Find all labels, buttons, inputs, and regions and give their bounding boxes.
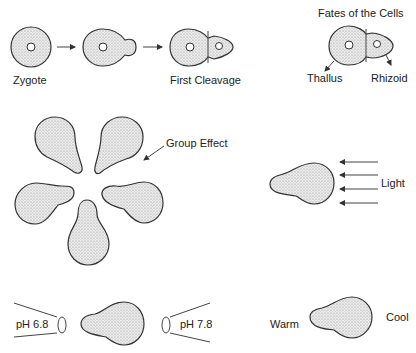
arrow-icon: [325, 61, 334, 71]
polarized-zygote-cell: [83, 29, 136, 66]
light-arrows: [340, 162, 378, 203]
polarity-diagram: Zygote First Cleavage Fates of the Cells…: [0, 0, 416, 353]
light-cell: [270, 163, 334, 204]
cool-label: Cool: [386, 311, 409, 323]
first-cleavage-label: First Cleavage: [170, 74, 241, 86]
temperature-cell: [310, 297, 372, 338]
light-label: Light: [381, 177, 405, 189]
thallus-label: Thallus: [307, 72, 343, 84]
warm-label: Warm: [270, 318, 299, 330]
fates-title: Fates of the Cells: [318, 7, 404, 19]
group-effect-label: Group Effect: [166, 137, 228, 149]
first-cleavage-cell: [170, 29, 233, 66]
fates-cell: [329, 26, 393, 65]
ph-cell: [81, 302, 144, 345]
arrow-icon: [144, 146, 164, 160]
zygote-label: Zygote: [13, 74, 47, 86]
arrow-icon: [386, 55, 391, 65]
ph-low-label: pH 6.8: [16, 318, 48, 330]
rhizoid-label: Rhizoid: [371, 72, 408, 84]
ph-high-label: pH 7.8: [180, 318, 212, 330]
group-effect-cells: [15, 117, 163, 265]
zygote-cell: [11, 27, 51, 67]
